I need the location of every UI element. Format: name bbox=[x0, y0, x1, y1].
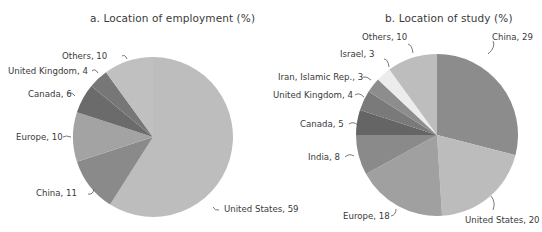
label-b-uk: United Kingdom, 4 bbox=[273, 90, 353, 100]
label-a-china: China, 11 bbox=[36, 188, 77, 198]
label-a-canada: Canada, 6 bbox=[28, 89, 72, 99]
label-b-iran: Iran, Islamic Rep., 3 bbox=[278, 72, 363, 82]
label-b-others: Others, 10 bbox=[362, 32, 407, 42]
pie-chart-study bbox=[356, 54, 518, 216]
pie-charts-canvas: Others, 10 United Kingdom, 4 Canada, 6 E… bbox=[0, 0, 542, 232]
label-b-israel: Israel, 3 bbox=[340, 49, 374, 59]
label-b-europe: Europe, 18 bbox=[343, 211, 390, 221]
label-b-canada: Canada, 5 bbox=[300, 119, 344, 129]
label-a-europe: Europe, 10 bbox=[16, 132, 63, 142]
label-b-china: China, 29 bbox=[492, 32, 533, 42]
pie-chart-employment bbox=[73, 57, 233, 217]
label-a-uk: United Kingdom, 4 bbox=[8, 66, 88, 76]
label-a-others: Others, 10 bbox=[62, 51, 107, 61]
label-b-india: India, 8 bbox=[308, 152, 340, 162]
label-a-us: United States, 59 bbox=[224, 204, 299, 214]
label-b-us: United States, 20 bbox=[465, 215, 540, 225]
